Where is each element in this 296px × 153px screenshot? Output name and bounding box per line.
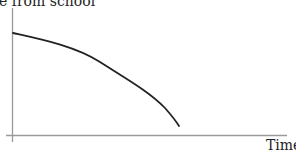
- distance-time-chart: e from school Time: [0, 0, 296, 153]
- y-axis-label: e from school: [0, 0, 95, 9]
- x-axis-label: Time: [266, 137, 296, 153]
- distance-curve: [13, 33, 179, 126]
- plot-area: [0, 0, 296, 153]
